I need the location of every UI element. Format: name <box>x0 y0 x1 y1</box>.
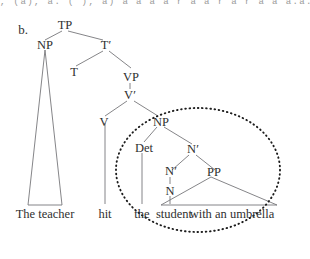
branch-tbar-t <box>76 51 103 66</box>
node-np-object: NP <box>153 115 169 129</box>
branch-vbar-v <box>105 101 127 116</box>
node-n: N <box>165 184 174 198</box>
node-det: Det <box>135 141 154 155</box>
tree-svg: b. TP NP T′ T VP V′ V NP Det N′ N′ N PP … <box>0 0 310 259</box>
branch-tp-tbar <box>68 31 103 40</box>
node-pp: PP <box>207 165 221 179</box>
syntax-tree-figure: , (a), a. ( ), a) a a a a r a a r a r a … <box>0 0 310 259</box>
branch-tbar-vp <box>109 51 131 68</box>
item-label: b. <box>18 22 28 37</box>
node-t: T <box>70 65 78 79</box>
node-vbar: V′ <box>124 88 136 102</box>
triangle-subject-np <box>28 50 62 205</box>
terminal-noun: student <box>156 207 193 221</box>
node-np-subject: NP <box>37 38 53 52</box>
terminal-det: the <box>134 207 150 221</box>
node-nbar-lower: N′ <box>165 164 177 178</box>
branch-vbar-np <box>134 101 158 116</box>
node-tbar: T′ <box>101 38 112 52</box>
clipped-header-text: , (a), a. ( ), a) a a a a r a a r a r a … <box>0 0 310 6</box>
branch-np-det <box>144 127 157 142</box>
node-nbar-upper: N′ <box>187 142 199 156</box>
terminal-verb: hit <box>98 207 112 221</box>
triangle-pp <box>161 177 277 205</box>
node-vp: VP <box>123 70 139 84</box>
node-tp: TP <box>58 18 73 32</box>
terminal-subject: The teacher <box>16 207 75 221</box>
terminal-pp: with an umbrella <box>190 207 275 221</box>
node-v: V <box>99 115 108 129</box>
